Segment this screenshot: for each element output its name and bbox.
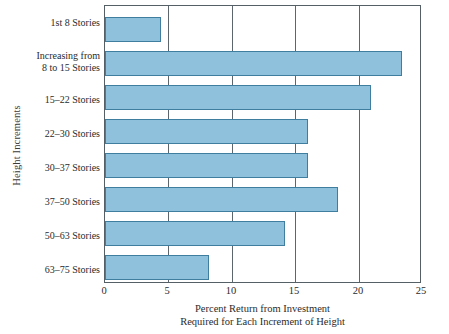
- x-axis-title-line2: Required for Each Increment of Height: [104, 315, 421, 328]
- category-label: 22–30 Stories: [16, 128, 100, 140]
- category-label: 50–63 Stories: [16, 230, 100, 242]
- bar-chart: Height Increments 1st 8 Stories Increasi…: [0, 0, 449, 334]
- bar-63-75-stories: [105, 255, 209, 280]
- gridline-15: [295, 6, 296, 282]
- x-tick-label: 10: [211, 285, 251, 296]
- bar-50-63-stories: [105, 221, 285, 246]
- bar-15-22-stories: [105, 85, 371, 110]
- category-label: 1st 8 Stories: [16, 17, 100, 29]
- x-tick-label: 20: [338, 285, 378, 296]
- bar-22-30-stories: [105, 119, 308, 144]
- plot-area: [104, 5, 421, 283]
- x-tick-label: 25: [401, 285, 441, 296]
- x-tick-label: 5: [147, 285, 187, 296]
- x-axis-tick-labels: 0 5 10 15 20 25: [0, 285, 449, 301]
- category-label: Increasing from 8 to 15 Stories: [16, 50, 100, 73]
- gridline-20: [359, 6, 360, 282]
- category-label: 63–75 Stories: [16, 264, 100, 276]
- x-tick-label: 0: [84, 285, 124, 296]
- category-label: 30–37 Stories: [16, 162, 100, 174]
- bar-8-to-15-stories: [105, 51, 402, 76]
- category-label: 15–22 Stories: [16, 94, 100, 106]
- bar-30-37-stories: [105, 153, 308, 178]
- x-axis-title: Percent Return from Investment Required …: [104, 302, 421, 328]
- bar-1st-8-stories: [105, 17, 161, 42]
- category-label: 37–50 Stories: [16, 196, 100, 208]
- bar-37-50-stories: [105, 187, 338, 212]
- category-label-column: 1st 8 Stories Increasing from 8 to 15 St…: [16, 5, 100, 283]
- x-tick-label: 15: [274, 285, 314, 296]
- x-axis-title-line1: Percent Return from Investment: [104, 302, 421, 315]
